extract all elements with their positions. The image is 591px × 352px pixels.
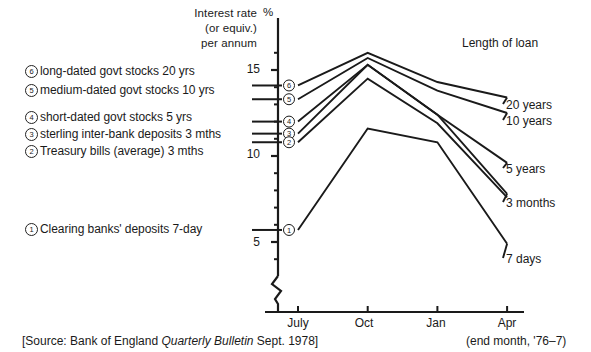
series-label-connector-1 [503, 244, 507, 258]
series-marker-number-6: 6 [287, 81, 291, 90]
series-marker-number-4: 4 [287, 117, 291, 126]
series-marker-number-1: 1 [287, 226, 291, 235]
series-line-3 [298, 65, 507, 194]
series-line-5 [298, 58, 507, 113]
series-line-1 [298, 128, 507, 243]
series-marker-number-2: 2 [287, 138, 291, 147]
series-label-connector-4 [503, 163, 507, 168]
chart-plot-area: 654321 [0, 0, 591, 352]
figure-interest-rate-chart: Interest rate (or equiv.) per annum % 15… [0, 0, 591, 352]
y-axis-break-icon [272, 276, 281, 312]
series-label-connector-6 [503, 98, 507, 104]
series-label-connector-5 [503, 113, 507, 120]
series-marker-number-5: 5 [287, 95, 291, 104]
